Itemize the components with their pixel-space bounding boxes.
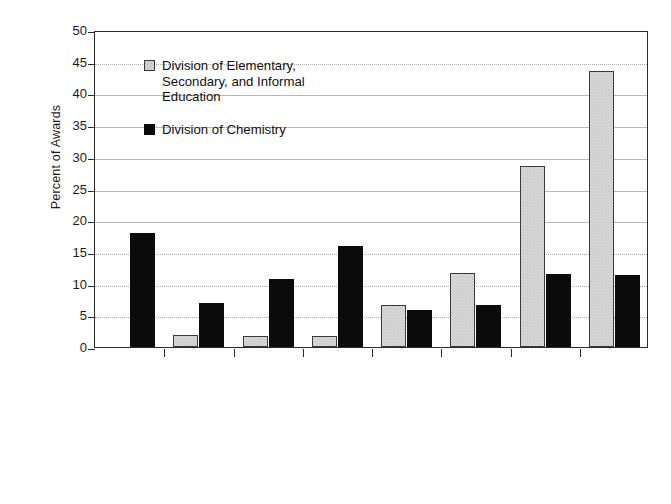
y-axis-tick bbox=[88, 317, 95, 318]
bar-elementary bbox=[243, 336, 268, 347]
bar-elementary bbox=[312, 336, 337, 347]
y-axis-tick-label: 25 bbox=[47, 183, 87, 196]
y-axis-tick bbox=[88, 191, 95, 192]
x-axis-tick bbox=[372, 349, 373, 357]
y-axis-tick bbox=[88, 222, 95, 223]
bar-chemistry bbox=[199, 303, 224, 347]
y-axis-tick bbox=[88, 349, 95, 350]
bar-chart-figure: Percent of Awards Division of Elementary… bbox=[0, 0, 671, 504]
bar-elementary bbox=[450, 273, 475, 347]
legend-label-elementary: Division of Elementary, Secondary, and I… bbox=[162, 58, 305, 105]
y-axis-tick bbox=[88, 159, 95, 160]
y-axis-tick bbox=[88, 95, 95, 96]
y-axis-tick bbox=[88, 64, 95, 65]
legend-swatch-light-icon bbox=[144, 60, 155, 71]
y-axis-tick-label: 5 bbox=[47, 309, 87, 322]
y-axis-tick bbox=[88, 32, 95, 33]
y-axis-tick-label: 50 bbox=[47, 24, 87, 37]
x-axis-tick bbox=[511, 349, 512, 357]
y-axis-tick bbox=[88, 286, 95, 287]
gridline bbox=[95, 254, 647, 255]
y-axis-tick-label: 0 bbox=[47, 341, 87, 354]
bar-chemistry bbox=[546, 274, 571, 347]
bar-chemistry bbox=[615, 275, 640, 347]
bar-elementary bbox=[520, 166, 545, 347]
x-axis-tick bbox=[441, 349, 442, 357]
bar-elementary bbox=[589, 71, 614, 347]
y-axis-tick-label: 20 bbox=[47, 214, 87, 227]
y-axis-tick-label: 15 bbox=[47, 246, 87, 259]
y-axis-tick-label: 40 bbox=[47, 87, 87, 100]
bar-chemistry bbox=[130, 233, 155, 347]
legend-item-elementary: Division of Elementary, Secondary, and I… bbox=[144, 58, 305, 105]
gridline bbox=[95, 159, 647, 160]
bar-elementary bbox=[173, 335, 198, 347]
x-axis-tick bbox=[164, 349, 165, 357]
bar-chemistry bbox=[476, 305, 501, 347]
legend-item-chemistry: Division of Chemistry bbox=[144, 122, 305, 138]
gridline bbox=[95, 222, 647, 223]
chart-legend: Division of Elementary, Secondary, and I… bbox=[144, 58, 305, 137]
y-axis-tick bbox=[88, 254, 95, 255]
y-axis-tick-label: 35 bbox=[47, 119, 87, 132]
bar-chemistry bbox=[269, 279, 294, 347]
legend-label-chemistry: Division of Chemistry bbox=[162, 122, 286, 138]
y-axis-tick bbox=[88, 127, 95, 128]
legend-swatch-dark-icon bbox=[144, 124, 155, 135]
bar-chemistry bbox=[338, 246, 363, 347]
y-axis-tick-label: 45 bbox=[47, 56, 87, 69]
x-axis-tick bbox=[303, 349, 304, 357]
gridline bbox=[95, 191, 647, 192]
bar-elementary bbox=[381, 305, 406, 347]
x-axis-tick bbox=[234, 349, 235, 357]
bar-chemistry bbox=[407, 310, 432, 347]
y-axis-tick-label: 10 bbox=[47, 278, 87, 291]
y-axis-tick-label: 30 bbox=[47, 151, 87, 164]
x-axis-tick bbox=[580, 349, 581, 357]
